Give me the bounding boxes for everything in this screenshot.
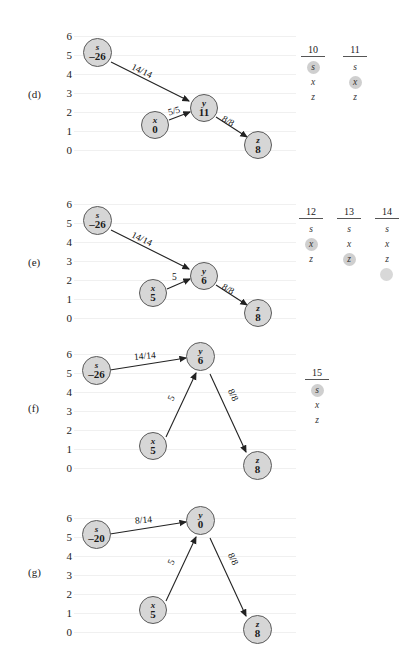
node-value: 0 bbox=[152, 124, 158, 135]
table-cell-text: z bbox=[315, 415, 319, 425]
graph-g: s –20 x 5 y 0 z 8 8/14 5 8/8 bbox=[0, 504, 300, 669]
node-value: 11 bbox=[199, 107, 209, 118]
node-s: s –20 bbox=[82, 520, 111, 549]
edge-label-s-y: 8/14 bbox=[135, 514, 153, 525]
node-value: –26 bbox=[89, 51, 106, 62]
table-cell-text: z bbox=[353, 92, 357, 102]
table-header: 13 bbox=[334, 206, 364, 218]
table-cell: z bbox=[340, 90, 370, 105]
table-column: 15 s x z bbox=[302, 367, 332, 428]
table-header: 11 bbox=[340, 44, 370, 56]
table-cell-text: z bbox=[309, 254, 313, 264]
node-x: x 5 bbox=[139, 279, 167, 307]
table-cell-text: x bbox=[347, 239, 351, 249]
table-cell-text: z bbox=[311, 92, 315, 102]
table-header: 15 bbox=[302, 367, 332, 379]
table-cell-text: z bbox=[347, 254, 351, 264]
edge-s-y bbox=[111, 230, 189, 269]
table-cell-text: x bbox=[311, 77, 315, 87]
panel-e: (e) 6 5 4 3 2 1 0 s –26 bbox=[0, 168, 410, 340]
table-rule bbox=[343, 56, 367, 57]
table-cell: z bbox=[302, 413, 332, 428]
table-cell-text: s bbox=[311, 62, 315, 72]
table-cell-text: x bbox=[353, 77, 357, 87]
table-cell: x bbox=[372, 237, 402, 252]
table-cell: z bbox=[298, 90, 328, 105]
node-value: 5 bbox=[150, 445, 156, 456]
table-cell-text: s bbox=[347, 224, 351, 234]
node-value: 5 bbox=[150, 609, 156, 620]
node-y: y 6 bbox=[186, 342, 215, 371]
table-cell: s bbox=[298, 60, 328, 75]
edge-layer-g bbox=[0, 504, 300, 669]
table-cell: z bbox=[372, 252, 402, 267]
node-value: 8 bbox=[255, 144, 261, 155]
table-cell: s bbox=[372, 222, 402, 237]
table-cell-text: s bbox=[315, 385, 319, 395]
node-s: s –26 bbox=[83, 38, 112, 67]
table-cell: s bbox=[296, 222, 326, 237]
node-y: y 6 bbox=[190, 262, 218, 290]
table-cell-text: s bbox=[385, 224, 389, 234]
table-column: 12 s x z bbox=[296, 206, 326, 267]
edge-x-y bbox=[166, 373, 196, 437]
edge-label-s-y: 14/14 bbox=[134, 350, 156, 362]
table-header: 14 bbox=[372, 206, 402, 218]
table-cell-empty-highlight bbox=[372, 267, 402, 282]
table-column: 14 s x z bbox=[372, 206, 402, 282]
node-value: 8 bbox=[255, 312, 261, 323]
table-cell: s bbox=[334, 222, 364, 237]
node-s: s –26 bbox=[83, 206, 112, 235]
node-value: 6 bbox=[198, 355, 204, 366]
edge-y-z bbox=[210, 374, 246, 452]
node-s: s –26 bbox=[82, 356, 111, 385]
table-column: 13 s x z bbox=[334, 206, 364, 267]
table-rule bbox=[301, 56, 325, 57]
table-cell: z bbox=[296, 252, 326, 267]
node-x: x 5 bbox=[139, 596, 167, 624]
node-value: –26 bbox=[89, 219, 106, 230]
table-cell: x bbox=[302, 398, 332, 413]
table-cell: z bbox=[334, 252, 364, 267]
table-cell: x bbox=[340, 75, 370, 90]
node-z: z 8 bbox=[244, 299, 272, 327]
node-y: y 11 bbox=[190, 94, 218, 122]
node-z: z 8 bbox=[243, 615, 272, 644]
edge-label-x-y: 5 bbox=[172, 272, 177, 282]
table-cell: x bbox=[334, 237, 364, 252]
node-value: –20 bbox=[88, 533, 105, 544]
table-header: 10 bbox=[298, 44, 328, 56]
table-rule bbox=[305, 379, 329, 380]
graph-d: s –26 x 0 y 11 z 8 14/14 5/5 8/8 bbox=[0, 0, 300, 168]
edge-x-y bbox=[166, 537, 196, 601]
node-value: 8 bbox=[255, 628, 261, 639]
table-cell-text: x bbox=[385, 239, 389, 249]
table-cell: x bbox=[296, 237, 326, 252]
node-z: z 8 bbox=[244, 131, 272, 159]
node-value: 5 bbox=[150, 292, 156, 303]
table-column: 10 s x z bbox=[298, 44, 328, 105]
graph-f: s –26 x 5 y 6 z 8 14/14 5 8/8 bbox=[0, 340, 300, 504]
table-column: 11 s x z bbox=[340, 44, 370, 105]
node-y: y 0 bbox=[186, 506, 215, 535]
table-cell-text: z bbox=[385, 254, 389, 264]
highlight-blob bbox=[380, 268, 393, 281]
table-cell: s bbox=[302, 383, 332, 398]
node-z: z 8 bbox=[243, 451, 272, 480]
node-value: –26 bbox=[88, 369, 105, 380]
table-rule bbox=[337, 218, 361, 219]
edge-y-z bbox=[210, 538, 246, 616]
edge-s-y bbox=[111, 62, 189, 101]
table-cell-text: s bbox=[309, 224, 313, 234]
node-value: 6 bbox=[201, 275, 207, 286]
node-x: x 0 bbox=[141, 111, 169, 139]
table-cell-text: s bbox=[353, 62, 357, 72]
edge-x-y bbox=[167, 279, 190, 289]
table-cell: x bbox=[298, 75, 328, 90]
node-value: 0 bbox=[198, 519, 204, 530]
node-x: x 5 bbox=[139, 432, 167, 460]
table-rule bbox=[299, 218, 323, 219]
panel-d: (d) 6 5 4 3 2 1 0 s –26 bbox=[0, 0, 410, 168]
graph-e: s –26 x 5 y 6 z 8 14/14 5 8/8 bbox=[0, 168, 300, 340]
panel-f: (f) 6 5 4 3 2 1 0 s –26 bbox=[0, 340, 410, 504]
